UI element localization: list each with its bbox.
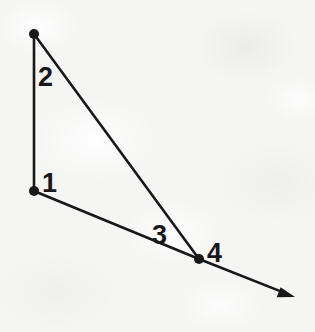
label-2: 2 [38,62,53,92]
label-1: 1 [42,168,57,198]
label-3: 3 [152,220,167,250]
vertex-dot-right-vertex [194,254,204,264]
vertex-dot-top-vertex [29,29,39,39]
label-4: 4 [207,238,222,268]
figure-canvas: 2134 [0,0,315,332]
arrowhead [277,287,295,297]
line-diagram: 2134 [0,0,315,332]
vertex-dot-left-middle-vertex [29,186,39,196]
edges-group [34,34,285,293]
arrowheads-group [277,287,295,297]
